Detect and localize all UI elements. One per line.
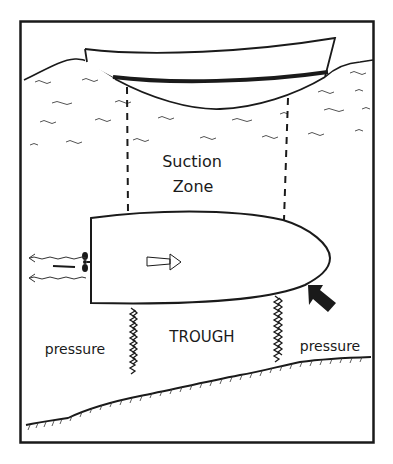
- trough-label: TROUGH: [168, 328, 234, 346]
- river-bed-line: [26, 357, 371, 425]
- river-bed-hatching: [28, 357, 362, 430]
- own-boat-hull: [91, 212, 330, 304]
- propeller-icon: [82, 252, 91, 272]
- zone-label: Zone: [173, 177, 214, 196]
- bank-suction-diagram: Suction Zone TROUGH pressure pressure: [0, 0, 393, 464]
- pressure-right-label: pressure: [300, 338, 360, 354]
- pressure-left-label: pressure: [45, 341, 105, 357]
- suction-label: Suction: [162, 152, 222, 171]
- thrust-line: [53, 266, 75, 267]
- passing-boat: [85, 38, 335, 109]
- water-surface-line-right: [325, 60, 373, 77]
- prop-wash-arrows: [29, 254, 86, 282]
- bow-push-arrow-icon: [308, 285, 336, 312]
